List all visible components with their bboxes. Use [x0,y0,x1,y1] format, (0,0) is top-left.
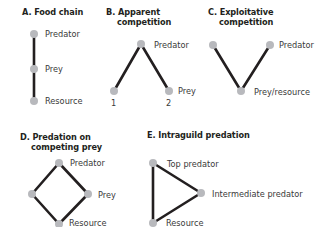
label-d-prey: Prey [98,190,116,200]
label-e-resource: Resource [166,218,204,227]
panel-b-title-line2: competition [106,17,171,27]
label-e-top-predator: Top predator [167,159,219,169]
label-b-1: 1 [111,98,116,108]
node-b-prey2 [165,87,173,95]
label-d-predator: Predator [70,158,105,168]
node-d-prey1 [28,190,36,198]
panel-d-title-line1: D. Predation on [20,132,91,142]
label-e-intermediate: Intermediate predator [212,189,303,199]
panel-e-graph [149,159,205,227]
label-a-prey: Prey [45,64,63,74]
node-e-intermediate [197,189,205,197]
panel-d-graph [28,159,92,227]
node-a-predator [30,30,38,38]
panel-c-title-line1: C. Exploitative [208,7,274,17]
panel-d-title: D. Predation on competing prey [20,132,102,152]
node-d-predator [55,159,63,167]
label-c-prey-resource: Prey/resource [254,87,310,97]
panel-d-title-line2: competing prey [20,142,102,152]
label-c-predator: Predator [279,40,314,50]
panel-a-graph [30,30,38,105]
label-d-resource: Resource [69,218,107,227]
label-a-predator: Predator [45,29,80,39]
node-b-predator [137,40,145,48]
panel-c-title-line2: competition [208,17,274,27]
panel-b-title: B. Apparent competition [106,7,171,27]
panel-e-title: E. Intraguild predation [147,130,250,140]
node-c-predator1 [209,41,217,49]
node-d-prey2 [84,190,92,198]
node-e-resource [149,219,157,227]
panel-c-title: C. Exploitative competition [208,7,274,27]
node-c-predator2 [266,41,274,49]
label-b-predator: Predator [154,40,189,50]
node-a-prey [30,65,38,73]
label-b-prey: Prey [178,86,196,96]
node-c-prey-resource [237,87,245,95]
node-a-resource [30,97,38,105]
label-b-2: 2 [166,98,171,108]
node-e-top-predator [149,159,157,167]
label-a-resource: Resource [45,96,83,106]
panel-b-title-line1: B. Apparent [106,7,160,17]
node-b-prey1 [110,87,118,95]
panel-a-title: A. Food chain [22,7,83,17]
